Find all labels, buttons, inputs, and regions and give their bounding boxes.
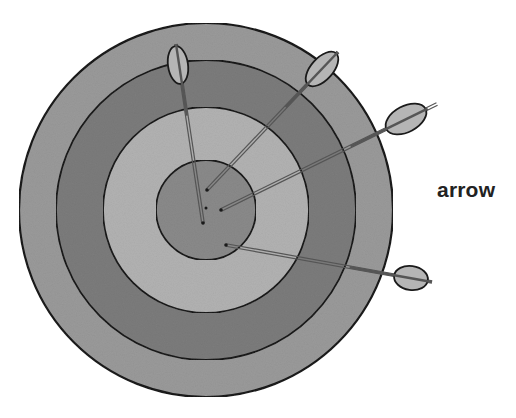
bullseye <box>156 160 256 260</box>
arrow-tip <box>219 208 223 212</box>
bullseye-center-dot <box>205 207 208 210</box>
archery-target-diagram: arrow <box>0 0 516 418</box>
arrow-tip <box>205 188 209 192</box>
target-rings <box>19 23 393 397</box>
arrow-label: arrow <box>437 178 495 202</box>
arrow-tip <box>224 243 228 247</box>
arrow-tip <box>201 221 205 225</box>
target-illustration <box>0 0 516 418</box>
